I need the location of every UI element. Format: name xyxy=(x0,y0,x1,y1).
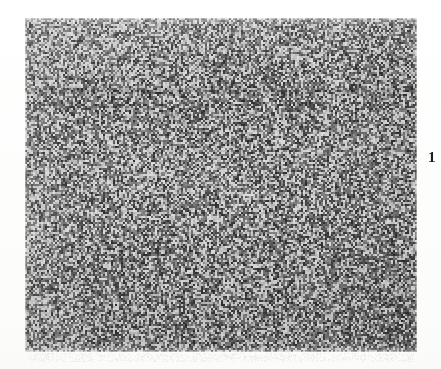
scan-residue-strip xyxy=(28,353,414,362)
halftone-micrograph-canvas xyxy=(25,18,417,352)
figure-image-plate xyxy=(25,18,417,352)
scan-residue-canvas xyxy=(28,353,414,362)
figure-number-label: 1 xyxy=(428,148,441,166)
scanned-page: 1 xyxy=(0,0,441,369)
